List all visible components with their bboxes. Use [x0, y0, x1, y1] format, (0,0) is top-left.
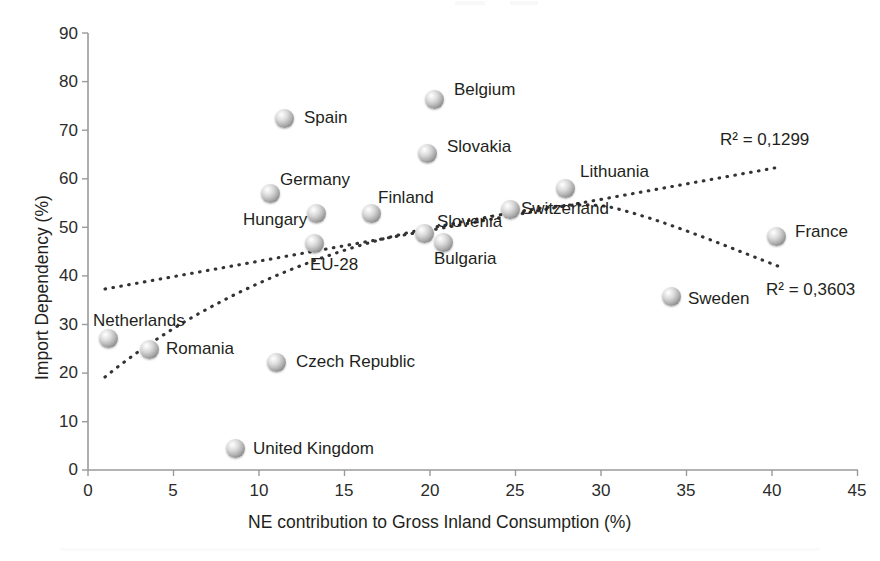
- x-tick-label-20: 20: [410, 481, 450, 501]
- data-point-france: [767, 227, 786, 246]
- r2-label-polynomial: R² = 0,3603: [766, 280, 855, 300]
- x-tick-label-15: 15: [324, 481, 364, 501]
- data-point-netherlands: [99, 329, 118, 348]
- data-label-united-kingdom: United Kingdom: [253, 439, 374, 459]
- data-label-eu-28: EU-28: [310, 255, 358, 275]
- data-point-sweden: [662, 287, 681, 306]
- data-point-switzerland: [501, 200, 520, 219]
- y-axis-ticks: [82, 33, 88, 470]
- y-tick-label-70: 70: [48, 121, 78, 141]
- plot-canvas: [0, 0, 880, 561]
- data-label-czech-republic: Czech Republic: [296, 352, 415, 372]
- data-label-netherlands: Netherlands: [93, 311, 185, 331]
- data-point-czech-republic: [267, 353, 286, 372]
- data-label-france: France: [795, 222, 848, 242]
- data-point-romania: [140, 340, 159, 359]
- x-axis-title: NE contribution to Gross Inland Consumpt…: [248, 512, 631, 533]
- y-tick-label-60: 60: [48, 169, 78, 189]
- x-tick-label-45: 45: [837, 481, 877, 501]
- data-point-slovakia: [418, 144, 437, 163]
- data-point-spain: [275, 109, 294, 128]
- data-label-slovakia: Slovakia: [447, 137, 511, 157]
- data-label-bulgaria: Bulgaria: [434, 249, 496, 269]
- x-tick-label-25: 25: [495, 481, 535, 501]
- x-tick-label-40: 40: [752, 481, 792, 501]
- x-tick-label-10: 10: [239, 481, 279, 501]
- data-label-finland: Finland: [378, 188, 434, 208]
- data-point-belgium: [425, 90, 444, 109]
- y-axis-title: Import Dependency (%): [32, 195, 53, 380]
- y-tick-label-80: 80: [48, 72, 78, 92]
- data-label-lithuania: Lithuania: [580, 162, 649, 182]
- x-tick-label-35: 35: [666, 481, 706, 501]
- data-point-united-kingdom: [226, 439, 245, 458]
- data-label-hungary: Hungary: [243, 210, 307, 230]
- x-tick-label-5: 5: [153, 481, 193, 501]
- data-label-belgium: Belgium: [454, 80, 515, 100]
- data-label-switzerland: Switzerland: [521, 199, 609, 219]
- data-label-spain: Spain: [304, 108, 347, 128]
- data-label-romania: Romania: [166, 339, 234, 359]
- y-tick-label-10: 10: [48, 412, 78, 432]
- data-point-eu-28: [305, 234, 324, 253]
- x-axis-ticks: [88, 470, 858, 476]
- x-tick-label-30: 30: [581, 481, 621, 501]
- r2-label-linear: R² = 0,1299: [720, 130, 809, 150]
- scatter-chart-figure: 90 80 70 60 50 40 30 20 10 0 0 5 10 15 2…: [0, 0, 880, 561]
- data-point-slovenia: [415, 224, 434, 243]
- data-label-sweden: Sweden: [688, 289, 749, 309]
- data-label-germany: Germany: [280, 170, 350, 190]
- y-tick-label-0: 0: [48, 460, 78, 480]
- x-tick-label-0: 0: [68, 481, 108, 501]
- data-point-germany: [261, 184, 280, 203]
- data-point-hungary: [307, 204, 326, 223]
- data-point-lithuania: [556, 179, 575, 198]
- data-label-slovenia: Slovenia: [437, 212, 502, 232]
- y-tick-label-90: 90: [48, 24, 78, 44]
